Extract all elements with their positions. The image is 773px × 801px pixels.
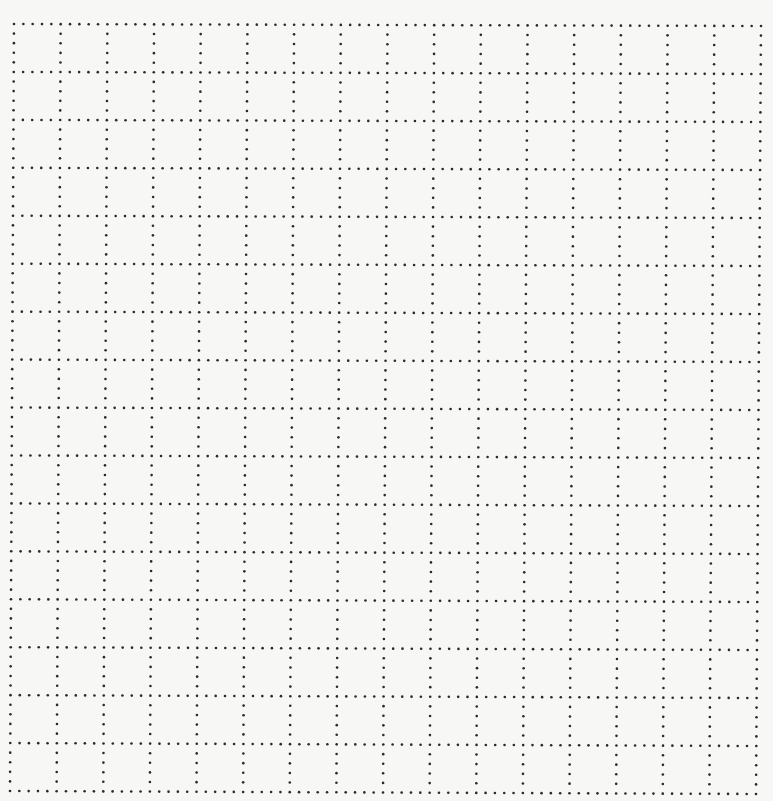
dotted-grid-paper: [0, 0, 773, 801]
dotted-grid: [0, 0, 773, 801]
